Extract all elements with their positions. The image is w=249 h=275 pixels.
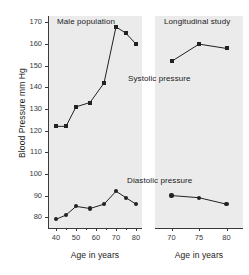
x-tick-mark (96, 228, 97, 231)
x-tick-mark (227, 228, 228, 231)
x-tick-minor-mark (126, 228, 127, 230)
data-point (134, 42, 138, 46)
x-tick-label: 40 (46, 234, 66, 242)
annotation-diastolic-pressure: Diastolic pressure (127, 176, 192, 185)
data-point (170, 59, 174, 63)
x-tick-mark (199, 228, 200, 231)
x-tick-label: 60 (86, 234, 106, 242)
data-point (197, 42, 201, 46)
x-tick-label: 70 (106, 234, 126, 242)
data-point (74, 105, 78, 109)
y-tick-label: 120 (20, 127, 42, 135)
left-x-axis-title: Age in years (48, 250, 142, 260)
data-point (169, 193, 173, 197)
x-tick-label: 70 (162, 234, 182, 242)
annotation-male-population: Male population (57, 17, 115, 26)
y-tick-label: 110 (20, 148, 42, 156)
data-point (88, 206, 92, 210)
x-tick-mark (116, 228, 117, 231)
y-tick-label: 130 (20, 105, 42, 113)
x-tick-minor-mark (106, 228, 107, 230)
data-point (224, 202, 228, 206)
x-tick-mark (76, 228, 77, 231)
y-tick-label: 160 (20, 40, 42, 48)
x-tick-label: 75 (189, 234, 209, 242)
data-point (124, 196, 128, 200)
data-point (225, 46, 229, 50)
y-tick-label: 80 (20, 213, 42, 221)
x-tick-label: 80 (126, 234, 146, 242)
x-tick-label: 80 (217, 234, 237, 242)
annotation-systolic-pressure: Systolic pressure (128, 74, 191, 83)
data-point (54, 124, 58, 128)
data-point (197, 196, 201, 200)
data-point (124, 31, 128, 35)
x-tick-mark (172, 228, 173, 231)
x-tick-label: 50 (66, 234, 86, 242)
data-point (64, 124, 68, 128)
y-tick-label: 150 (20, 62, 42, 70)
left-x-axis-line (48, 228, 142, 229)
y-tick-label: 170 (20, 18, 42, 26)
left-y-axis-line (48, 16, 49, 228)
blood-pressure-chart: Blood Pressure mm Hg 8090100110120130140… (0, 0, 249, 275)
x-tick-minor-mark (86, 228, 87, 230)
data-point (102, 81, 106, 85)
data-point (88, 101, 92, 105)
annotation-longitudinal-study: Longitudinal study (164, 17, 230, 26)
right-x-axis-title: Age in years (155, 250, 243, 260)
left-plot-area (48, 16, 142, 228)
x-tick-mark (56, 228, 57, 231)
x-tick-minor-mark (66, 228, 67, 230)
y-tick-label: 100 (20, 170, 42, 178)
y-tick-label: 140 (20, 83, 42, 91)
y-tick-label: 90 (20, 192, 42, 200)
x-tick-mark (136, 228, 137, 231)
